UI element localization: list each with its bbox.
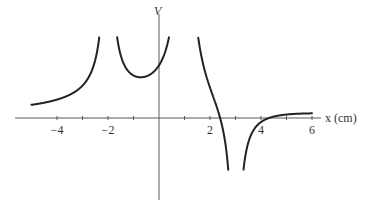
x-tick-label: 2 xyxy=(207,123,213,137)
potential-chart: −4−2246 V x (cm) xyxy=(0,0,368,202)
x-tick-labels: −4−2246 xyxy=(51,123,315,137)
potential-curve-segment xyxy=(244,113,312,169)
x-axis-label: x (cm) xyxy=(325,111,357,125)
potential-curve-segment xyxy=(32,38,100,105)
y-axis-label: V xyxy=(154,4,163,18)
potential-curve-segment xyxy=(198,38,228,170)
x-tick-label: 4 xyxy=(258,123,264,137)
x-tick-label: 6 xyxy=(309,123,315,137)
potential-curve-segment xyxy=(117,37,169,77)
x-tick-label: −4 xyxy=(51,123,64,137)
potential-curve xyxy=(32,37,313,170)
x-tick-label: −2 xyxy=(102,123,115,137)
